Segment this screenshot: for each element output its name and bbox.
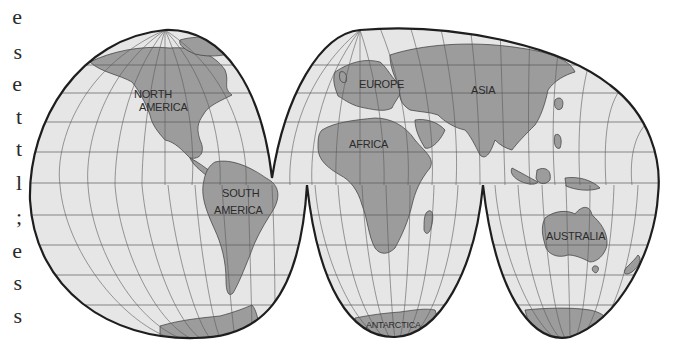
label-europe: EUROPE [359,78,404,90]
world-map: NORTH AMERICA SOUTH AMERICA EUROPE ASIA … [0,0,686,354]
label-north-america-2: AMERICA [139,101,189,113]
tasmania [592,266,598,273]
label-australia: AUSTRALIA [546,230,606,242]
philippines [554,134,561,148]
label-south-america-2: AMERICA [214,204,264,216]
label-antarctica: ANTARCTICA [366,320,421,330]
label-north-america-1: NORTH [134,88,172,100]
borneo [536,168,550,183]
label-south-america-1: SOUTH [222,187,260,199]
japan [555,98,563,110]
label-africa: AFRICA [349,138,389,150]
label-asia: ASIA [471,84,496,96]
